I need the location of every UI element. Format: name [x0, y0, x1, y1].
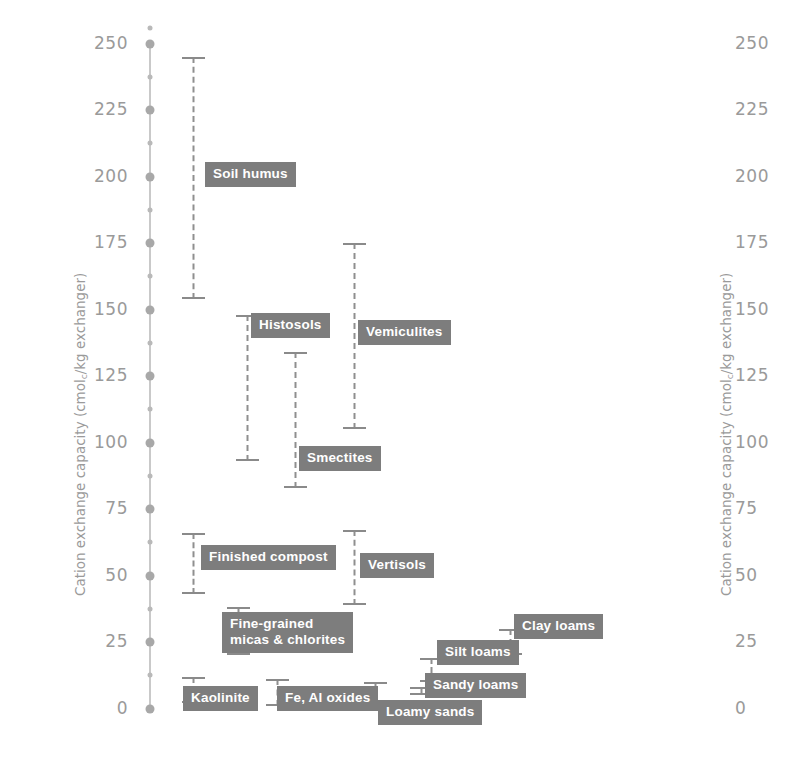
axis-major-dot	[146, 106, 155, 115]
axis-major-dot	[146, 638, 155, 647]
category-tag[interactable]: Histosols	[251, 313, 330, 338]
y-tick-left-25: 25	[68, 631, 128, 651]
range-bar-stem	[246, 315, 248, 461]
y-tick-right-50: 50	[735, 565, 795, 585]
category-tag[interactable]: Fine-grained micas & chlorites	[222, 612, 353, 653]
y-axis-right-title: Cation exchange capacity (cmolc/kg excha…	[718, 273, 734, 596]
y-axis-left-title: Cation exchange capacity (cmolc/kg excha…	[72, 273, 88, 596]
axis-major-dot	[146, 438, 155, 447]
y-tick-right-200: 200	[735, 166, 795, 186]
category-tag[interactable]: Vemiculites	[358, 320, 451, 345]
category-tag[interactable]: Sandy loams	[425, 673, 526, 698]
category-tag[interactable]: Finished compost	[201, 545, 336, 570]
range-bar-cap-low	[343, 427, 366, 429]
range-bar-stem	[192, 57, 194, 299]
range-bar-cap-low	[343, 603, 366, 605]
range-bar-cap-low	[182, 592, 205, 594]
range-bar-cap-high	[227, 607, 250, 609]
range-bar-cap-low	[227, 653, 250, 655]
y-tick-right-0: 0	[735, 698, 795, 718]
y-tick-right-150: 150	[735, 299, 795, 319]
y-tick-left-0: 0	[68, 698, 128, 718]
y-tick-right-75: 75	[735, 498, 795, 518]
axis-minor-dot	[148, 207, 153, 212]
y-tick-right-100: 100	[735, 432, 795, 452]
range-bar-cap-high	[284, 352, 307, 354]
y-tick-right-225: 225	[735, 99, 795, 119]
range-bar-cap-high	[266, 679, 289, 681]
range-bar-cap-high	[182, 57, 205, 59]
range-bar-cap-low	[284, 486, 307, 488]
range-bar-cap-high	[343, 243, 366, 245]
range-bar-cap-low	[182, 297, 205, 299]
axis-major-dot	[146, 172, 155, 181]
axis-major-dot	[146, 305, 155, 314]
range-bar-stem	[353, 243, 355, 429]
range-bar-stem	[353, 530, 355, 604]
range-bar	[182, 57, 205, 299]
range-bar-cap-high	[182, 533, 205, 535]
category-tag[interactable]: Smectites	[299, 446, 381, 471]
cec-range-chart: 0255075100125150175200225250 02550751001…	[0, 0, 811, 762]
axis-major-dot	[146, 372, 155, 381]
range-bar-cap-low	[236, 459, 259, 461]
axis-major-dot	[146, 505, 155, 514]
range-bar-cap-high	[343, 530, 366, 532]
axis-minor-dot	[148, 540, 153, 545]
axis-minor-dot	[148, 274, 153, 279]
axis-major-dot	[146, 704, 155, 713]
axis-minor-dot	[148, 673, 153, 678]
category-tag[interactable]: Vertisols	[360, 553, 434, 578]
axis-major-dot	[146, 571, 155, 580]
range-bar-cap-high	[182, 677, 205, 679]
y-tick-right-175: 175	[735, 232, 795, 252]
axis-major-dot	[146, 239, 155, 248]
axis-minor-dot	[148, 407, 153, 412]
category-tag[interactable]: Loamy sands	[378, 700, 482, 725]
axis-minor-dot	[148, 141, 153, 146]
axis-minor-dot	[148, 606, 153, 611]
y-tick-right-25: 25	[735, 631, 795, 651]
range-bar-stem	[294, 352, 296, 488]
y-tick-left-175: 175	[68, 232, 128, 252]
category-tag[interactable]: Soil humus	[205, 162, 296, 187]
y-tick-right-125: 125	[735, 365, 795, 385]
axis-minor-dot	[148, 473, 153, 478]
category-tag[interactable]: Clay loams	[514, 614, 603, 639]
axis-top-dot	[148, 25, 153, 30]
y-tick-right-250: 250	[735, 33, 795, 53]
category-tag[interactable]: Silt loams	[437, 640, 519, 665]
y-tick-left-200: 200	[68, 166, 128, 186]
range-bar-cap-high	[364, 682, 387, 684]
category-tag[interactable]: Fe, Al oxides	[277, 686, 378, 711]
axis-major-dot	[146, 39, 155, 48]
y-tick-left-250: 250	[68, 33, 128, 53]
axis-minor-dot	[148, 74, 153, 79]
range-bar-stem	[192, 533, 194, 594]
category-tag[interactable]: Kaolinite	[183, 686, 258, 711]
axis-minor-dot	[148, 340, 153, 345]
y-tick-left-225: 225	[68, 99, 128, 119]
